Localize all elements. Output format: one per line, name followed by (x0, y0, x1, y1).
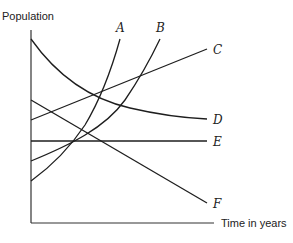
population-chart: Population Time in years A B C D E F (0, 0, 293, 243)
curve-c (31, 49, 207, 120)
curve-b (31, 39, 160, 161)
x-axis-label: Time in years (221, 217, 287, 229)
curve-f (31, 100, 207, 203)
label-c: C (213, 43, 222, 57)
label-f: F (212, 197, 222, 211)
label-a: A (115, 21, 125, 35)
curve-a (31, 39, 120, 181)
label-e: E (212, 135, 222, 149)
label-b: B (155, 21, 165, 35)
y-axis-label: Population (2, 10, 54, 22)
label-d: D (212, 113, 223, 127)
